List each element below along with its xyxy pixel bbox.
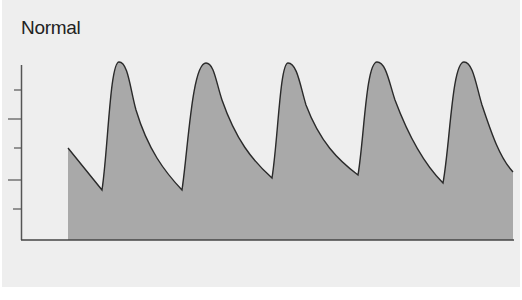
waveform-chart: [0, 0, 522, 300]
waveform-area: [68, 62, 513, 240]
y-axis-ticks: [8, 90, 21, 209]
